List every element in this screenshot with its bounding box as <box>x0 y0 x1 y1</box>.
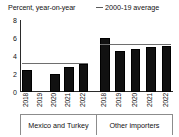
bar-mexico-turkey-2021 <box>64 67 74 92</box>
group-caption-other-importers: Other importers <box>97 114 173 135</box>
bar-group-other-importers <box>100 20 171 92</box>
group-caption-band: Mexico and Turkey Other importers <box>20 114 173 135</box>
y-axis-tick-8: 8 <box>13 17 20 24</box>
y-axis-tick-0: 0 <box>13 89 20 96</box>
y-axis-tick-label-6: 6 <box>13 35 17 42</box>
x-tick-other-importers-2021: 2021 <box>146 93 156 107</box>
bar-series-other-importers <box>100 20 171 92</box>
y-axis-tick-label-2: 2 <box>13 71 17 78</box>
bar-group-mexico-and-turkey <box>22 20 88 92</box>
bar-series-mexico-and-turkey <box>22 20 88 92</box>
group-caption-mexico-and-turkey: Mexico and Turkey <box>20 114 97 135</box>
chart-figure: Percent, year-on-year 2000-19 average 8 … <box>0 0 179 137</box>
x-tick-other-importers-2020: 2020 <box>131 93 141 107</box>
x-tick-mexico-turkey-2020: 2020 <box>50 93 60 107</box>
x-tick-other-importers-2018: 2018 <box>100 93 110 107</box>
bar-other-importers-2021 <box>146 47 156 92</box>
bar-mexico-turkey-2020 <box>50 74 60 92</box>
y-axis-tick-2: 2 <box>13 71 20 78</box>
y-axis-tick-4: 4 <box>13 53 20 60</box>
x-axis-tick-label-band: 2018 2019 2020 2021 2022 2018 2019 2020 … <box>20 92 173 116</box>
x-tick-mexico-turkey-2019: 2019 <box>36 93 46 107</box>
x-ticks-other-importers: 2018 2019 2020 2021 2022 <box>100 92 171 116</box>
bar-other-importers-2019 <box>115 51 125 92</box>
chart-legend: 2000-19 average <box>96 3 159 12</box>
bar-other-importers-2022 <box>162 46 172 92</box>
bar-mexico-turkey-2018 <box>22 70 32 92</box>
x-tick-other-importers-2019: 2019 <box>115 93 125 107</box>
bar-other-importers-2018 <box>100 38 110 92</box>
y-axis-tick-label-8: 8 <box>13 17 17 24</box>
y-axis-tick-label-4: 4 <box>13 53 17 60</box>
average-line-other-importers <box>100 44 171 45</box>
x-tick-other-importers-2022: 2022 <box>162 93 172 107</box>
bar-other-importers-2020 <box>131 49 141 92</box>
legend-line-marker-icon <box>96 7 103 8</box>
average-line-mexico-and-turkey <box>22 63 88 64</box>
bar-mexico-turkey-2022 <box>79 64 89 92</box>
y-axis-line <box>20 20 21 92</box>
x-ticks-mexico-and-turkey: 2018 2019 2020 2021 2022 <box>22 92 88 116</box>
plot-area: 8 6 4 2 0 <box>20 20 173 92</box>
y-axis-tick-label-0: 0 <box>13 89 17 96</box>
y-axis-tick-6: 6 <box>13 35 20 42</box>
chart-axis-title: Percent, year-on-year <box>8 3 75 12</box>
x-tick-mexico-turkey-2018: 2018 <box>22 93 32 107</box>
x-tick-mexico-turkey-2022: 2022 <box>79 93 89 107</box>
x-tick-mexico-turkey-2021: 2021 <box>64 93 74 107</box>
legend-label-average: 2000-19 average <box>105 3 159 12</box>
